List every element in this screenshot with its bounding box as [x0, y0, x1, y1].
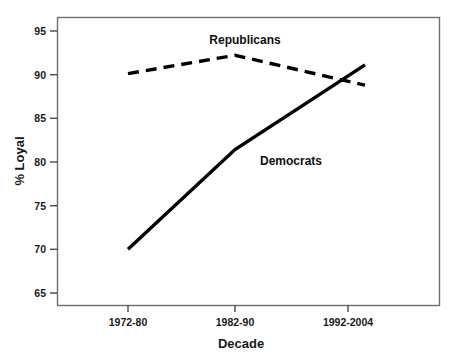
y-tick-label-65: 65 [34, 287, 46, 299]
y-tick-label-80: 80 [34, 156, 46, 168]
x-axis-title: Decade [218, 336, 264, 351]
line-chart-svg: 95 90 85 80 75 70 65 % Loyal 1972-80 198… [0, 0, 457, 356]
x-tick-label-2: 1982-90 [216, 316, 255, 328]
y-tick-label-90: 90 [34, 69, 46, 81]
y-tick-label-75: 75 [34, 200, 46, 212]
series-label-democrats: Democrats [260, 154, 322, 168]
chart-background [0, 0, 457, 356]
y-tick-label-85: 85 [34, 112, 46, 124]
series-label-republicans: Republicans [209, 33, 281, 47]
y-tick-label-70: 70 [34, 243, 46, 255]
chart-figure: 95 90 85 80 75 70 65 % Loyal 1972-80 198… [0, 0, 457, 356]
y-axis-title: % Loyal [12, 136, 27, 185]
y-tick-label-95: 95 [34, 25, 46, 37]
x-tick-label-3: 1992-2004 [323, 316, 373, 328]
x-tick-label-1: 1972-80 [109, 316, 148, 328]
